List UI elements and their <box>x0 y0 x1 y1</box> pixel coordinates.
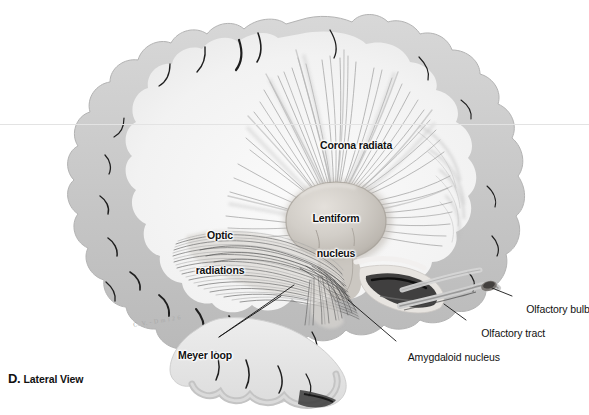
caption-letter: D. <box>8 371 20 386</box>
figure-canvas: Corona radiata Lentiform nucleus Optic r… <box>0 0 589 415</box>
caption-text: Lateral View <box>23 373 83 385</box>
label-lentiform-nucleus: Lentiform nucleus <box>300 189 372 283</box>
label-meyer-loop: Meyer loop <box>167 338 232 373</box>
label-optic-radiations: Optic radiations <box>186 206 254 300</box>
brain-dissection-illustration <box>0 0 589 415</box>
figure-caption: D. Lateral View <box>8 371 83 386</box>
label-corona-radiata: Corona radiata <box>309 128 392 163</box>
horizontal-rule <box>0 124 589 125</box>
leader-olfactory-bulb <box>492 288 512 296</box>
label-amygdaloid-nucleus: Amygdaloid nucleus <box>397 340 500 375</box>
